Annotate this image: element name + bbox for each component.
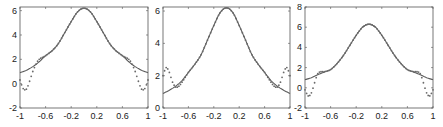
dotted-marker (77, 11, 79, 13)
dotted-marker (232, 12, 234, 14)
dotted-marker (227, 7, 229, 9)
dotted-marker (101, 29, 103, 31)
y-tick-label: 6 (155, 6, 160, 16)
dotted-marker (123, 56, 125, 58)
dotted-marker (286, 67, 288, 69)
dotted-marker (265, 74, 267, 76)
panel-2: -1-0.6-0.20.20.610246 (155, 6, 293, 121)
dotted-marker (34, 67, 36, 69)
dotted-marker (109, 43, 111, 45)
dotted-marker (51, 50, 53, 52)
dotted-marker (70, 21, 72, 23)
dotted-marker (386, 42, 388, 44)
dotted-marker (315, 77, 317, 79)
dotted-marker (69, 23, 71, 25)
dotted-marker (352, 39, 354, 41)
dotted-marker (147, 79, 149, 81)
x-tick-label: 1 (287, 111, 292, 121)
dotted-marker (173, 84, 175, 86)
dotted-marker (416, 71, 418, 73)
series-solid-line (20, 8, 148, 72)
dotted-marker (205, 43, 207, 45)
dotted-marker (330, 69, 332, 71)
dotted-marker (120, 54, 122, 56)
dotted-marker (410, 70, 412, 72)
dotted-marker (402, 64, 404, 66)
dotted-marker (371, 24, 373, 26)
dotted-marker (378, 30, 380, 32)
dotted-marker (229, 8, 231, 10)
dotted-marker (38, 58, 40, 60)
dotted-marker (93, 15, 95, 17)
dotted-marker (83, 7, 85, 9)
dotted-marker (59, 40, 61, 42)
dotted-marker (306, 93, 308, 95)
dotted-marker (21, 84, 23, 86)
dotted-marker (243, 36, 245, 38)
y-tick-label: 6 (297, 22, 302, 32)
dotted-marker (165, 67, 167, 69)
dotted-marker (411, 70, 413, 72)
dotted-marker (195, 61, 197, 63)
x-tick-label: 0.6 (258, 111, 271, 121)
x-tick-label: -1 (301, 111, 309, 121)
y-tick-label: 4 (12, 30, 17, 40)
dotted-marker (264, 72, 266, 74)
dotted-marker (421, 77, 423, 79)
y-tick-label: 4 (297, 42, 302, 52)
dotted-marker (322, 71, 324, 73)
dotted-marker (115, 50, 117, 52)
dotted-marker (211, 28, 213, 30)
dotted-marker (399, 61, 401, 63)
dotted-marker (375, 26, 377, 28)
dotted-marker (251, 54, 253, 56)
dotted-marker (216, 18, 218, 20)
dotted-marker (202, 50, 204, 52)
dotted-marker (368, 23, 370, 25)
dotted-marker (276, 86, 278, 88)
dotted-marker (278, 84, 280, 86)
dotted-marker (114, 48, 116, 50)
dotted-marker (78, 9, 80, 11)
dotted-marker (381, 34, 383, 36)
dotted-marker (96, 21, 98, 23)
dotted-marker (50, 51, 52, 53)
dotted-marker (424, 87, 426, 89)
dotted-marker (203, 47, 205, 49)
x-tick-label: 0.2 (91, 111, 104, 121)
dotted-marker (429, 95, 431, 97)
dotted-marker (289, 75, 291, 77)
dotted-marker (37, 60, 39, 62)
dotted-marker (338, 61, 340, 63)
dotted-marker (91, 13, 93, 15)
dotted-marker (45, 55, 47, 57)
dotted-marker (384, 39, 386, 41)
axes-box (20, 7, 148, 108)
dotted-marker (379, 32, 381, 34)
dotted-marker (400, 63, 402, 65)
dotted-marker (122, 55, 124, 57)
dotted-marker (138, 80, 140, 82)
dotted-marker (85, 8, 87, 10)
dotted-marker (146, 84, 148, 86)
dotted-marker (240, 28, 242, 30)
panel-1: -1-0.6-0.20.20.61-20246 (9, 6, 151, 121)
series-dotted-markers (162, 7, 291, 88)
dotted-marker (397, 59, 399, 61)
dotted-marker (357, 32, 359, 34)
axes-box (305, 7, 433, 108)
dotted-marker (281, 76, 283, 78)
dotted-marker (208, 36, 210, 38)
dotted-marker (94, 18, 96, 20)
x-tick-label: 1 (430, 111, 435, 121)
dotted-marker (26, 88, 28, 90)
dotted-marker (40, 57, 42, 59)
dotted-marker (62, 34, 64, 36)
dotted-marker (327, 70, 329, 72)
dotted-marker (128, 58, 130, 60)
dotted-marker (268, 79, 270, 81)
dotted-marker (309, 94, 311, 96)
dotted-marker (325, 70, 327, 72)
dotted-marker (75, 13, 77, 15)
dotted-marker (328, 70, 330, 72)
